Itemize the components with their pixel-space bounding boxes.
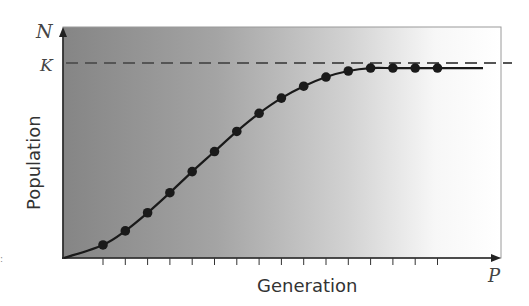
- data-point: [121, 226, 131, 236]
- logistic-growth-chart: N K Population Generation P :: [0, 0, 529, 306]
- x-axis-symbol-label: P: [487, 265, 501, 286]
- y-axis-symbol-label: N: [35, 20, 54, 42]
- data-point: [254, 109, 264, 119]
- data-point: [165, 188, 175, 198]
- data-point: [388, 63, 398, 73]
- data-point: [98, 240, 108, 250]
- x-axis-title: Generation: [257, 275, 357, 296]
- data-point: [143, 208, 153, 218]
- plot-area: [63, 27, 501, 258]
- data-point: [433, 63, 443, 73]
- data-point: [299, 81, 309, 91]
- data-point: [232, 127, 242, 137]
- k-label: K: [39, 55, 54, 75]
- data-point: [410, 63, 420, 73]
- data-point: [344, 66, 354, 76]
- data-point: [187, 167, 197, 177]
- edge-artifact: :: [0, 254, 3, 264]
- data-point: [277, 93, 287, 103]
- x-axis-ticks: [103, 258, 438, 265]
- data-point: [210, 147, 220, 157]
- y-axis-title: Population: [23, 115, 44, 210]
- data-point: [366, 63, 376, 73]
- data-point: [321, 72, 331, 82]
